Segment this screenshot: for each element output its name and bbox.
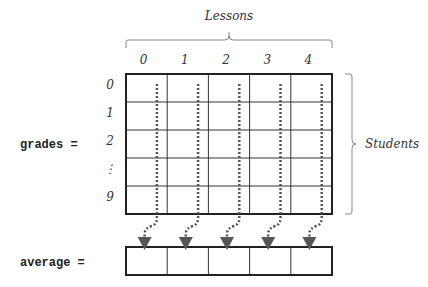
students-label: Students [365,137,419,151]
students-brace [345,74,356,214]
arrow-head-icon [261,237,275,250]
lessons-brace [126,36,332,48]
column-label: 0 [140,53,148,67]
row-label: 1 [106,106,114,120]
average-label: average = [20,256,85,270]
average-flow-arrow [309,84,321,239]
diagram: Lessons 01234 012⋮9 grades = average = S… [0,0,428,287]
lessons-label: Lessons [204,9,254,23]
column-label: 3 [263,53,271,67]
arrow-head-icon [302,237,316,250]
arrow-head-icon [138,237,152,250]
row-label: 2 [105,134,114,148]
arrow-head-icon [220,237,234,250]
average-flow-arrow [145,84,157,239]
column-label: 4 [304,53,313,67]
grades-label: grades = [20,138,78,152]
column-label: 2 [221,53,230,67]
average-flow-arrow [268,84,280,239]
arrow-head-icon [179,237,193,250]
average-flow-arrow [186,84,198,239]
row-label: 9 [106,190,114,204]
average-flow-arrow [227,84,239,239]
average-array [126,247,332,275]
row-label: 0 [106,78,114,92]
column-label: 1 [181,53,189,67]
row-label: ⋮ [104,162,116,176]
